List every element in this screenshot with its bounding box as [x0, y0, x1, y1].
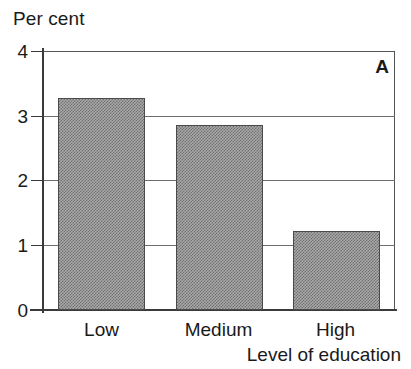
y-tick-label-1: 1	[8, 236, 28, 255]
bar-high[interactable]	[293, 231, 380, 310]
y-axis-caption: Per cent	[13, 8, 85, 30]
y-tick-label-0: 0	[8, 301, 28, 320]
bar-low[interactable]	[58, 98, 145, 310]
x-tick-label-low: Low	[58, 319, 145, 341]
y-tick-mark-3	[31, 116, 43, 117]
y-tick-mark-2	[31, 180, 43, 181]
x-tick-label-high: High	[292, 319, 379, 341]
y-tick-mark-4	[31, 51, 43, 52]
x-tick-label-medium: Medium	[175, 319, 262, 341]
y-tick-mark-1	[31, 245, 43, 246]
bar-chart-figure: Per cent 4 3 2 1 0 A Low Medium High Lev…	[0, 0, 411, 369]
y-tick-label-4: 4	[8, 42, 28, 61]
y-tick-mark-0	[31, 310, 43, 311]
y-tick-label-3: 3	[8, 107, 28, 126]
y-tick-label-2: 2	[8, 171, 28, 190]
panel-label: A	[375, 57, 389, 77]
bar-medium[interactable]	[176, 125, 263, 310]
x-axis-caption: Level of education	[247, 344, 401, 366]
